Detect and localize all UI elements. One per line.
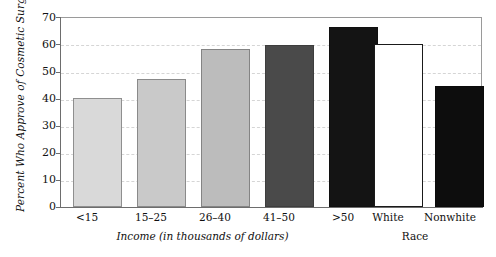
y-tick-label-30: 30 (16, 120, 56, 131)
y-tick-label-70: 70 (16, 12, 56, 23)
bar-income-over-50[interactable] (329, 27, 378, 207)
x-tick-label-under-15: <15 (57, 211, 117, 224)
bar-chart-figure: Percent Who Approve of Cosmetic Surgery … (0, 0, 496, 257)
x-axis-line (60, 207, 483, 208)
x-axis-title-race: Race (348, 230, 482, 242)
y-tick-label-10: 10 (16, 174, 56, 185)
bar-race-white[interactable] (374, 44, 423, 207)
y-axis-line (60, 17, 61, 208)
y-tick-label-0: 0 (16, 201, 56, 212)
bar-income-26-40[interactable] (201, 49, 250, 207)
x-tick-label-15-25: 15–25 (121, 211, 181, 224)
bar-fill (435, 86, 484, 207)
bar-income-under-15[interactable] (73, 98, 122, 207)
bar-fill (329, 27, 378, 207)
y-tick-label-50: 50 (16, 66, 56, 77)
bar-income-15-25[interactable] (137, 79, 186, 207)
bar-race-nonwhite[interactable] (435, 86, 484, 207)
bar-fill (73, 98, 122, 207)
y-tick-label-60: 60 (16, 39, 56, 50)
y-tick-label-40: 40 (16, 93, 56, 104)
x-tick-label-nonwhite: Nonwhite (415, 211, 485, 224)
x-tick-label-41-50: 41–50 (249, 211, 309, 224)
x-axis-title-income: Income (in thousands of dollars) (60, 230, 345, 242)
bar-fill (374, 44, 423, 207)
bar-fill (137, 79, 186, 207)
y-tick-label-20: 20 (16, 147, 56, 158)
bar-fill (201, 49, 250, 207)
bar-fill (265, 45, 314, 207)
plot-area (60, 17, 482, 208)
x-tick-label-white: White (358, 211, 418, 224)
x-tick-label-26-40: 26–40 (185, 211, 245, 224)
bar-income-41-50[interactable] (265, 45, 314, 207)
